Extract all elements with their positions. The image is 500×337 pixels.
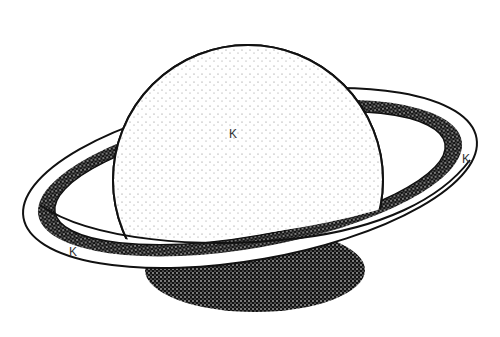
saturn-diagram: [0, 0, 500, 337]
label-planet: K: [229, 127, 237, 141]
label-ring-right: K: [462, 152, 470, 166]
label-ring-left: K: [69, 245, 77, 259]
